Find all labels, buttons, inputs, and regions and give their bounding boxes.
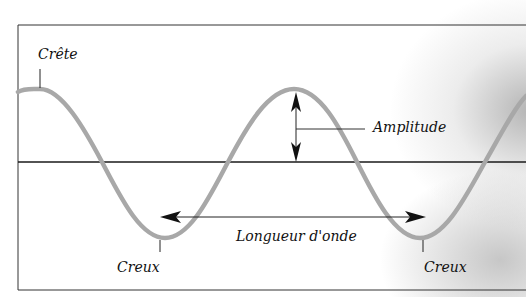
wavelength-label: Longueur d'onde — [236, 228, 357, 244]
crest-label: Crête — [38, 46, 78, 62]
trough-right-label: Creux — [424, 259, 467, 275]
wave-diagram — [0, 0, 526, 297]
amplitude-label: Amplitude — [373, 119, 446, 135]
trough-left-label: Creux — [117, 259, 160, 275]
frame — [18, 25, 526, 290]
wave-curve — [18, 89, 526, 238]
